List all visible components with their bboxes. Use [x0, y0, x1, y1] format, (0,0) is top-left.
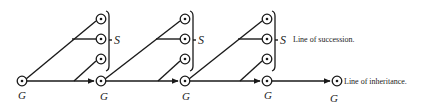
generation-label: G [264, 89, 272, 101]
somatic-node [262, 54, 272, 64]
somatic-node [180, 14, 190, 24]
succession-label: S [114, 33, 120, 47]
generation-label: G [100, 90, 108, 102]
somatic-node [96, 14, 106, 24]
nodes [17, 14, 342, 86]
succession-bracket [106, 11, 109, 71]
somatic-node [180, 34, 190, 44]
succession-bracket [272, 11, 275, 71]
germ-node [180, 76, 190, 86]
succession-diagonal-lower [240, 61, 262, 81]
generation-labels: G G G G G [18, 89, 338, 104]
somatic-node [96, 54, 106, 64]
line-of-inheritance-caption: Line of inheritance. [344, 77, 407, 86]
succession-label: S [198, 33, 204, 47]
succession-label: S [280, 33, 286, 47]
germ-node [262, 76, 272, 86]
succession-diagonal-lower [158, 61, 180, 81]
somatic-node [262, 34, 272, 44]
somatic-node [262, 14, 272, 24]
generation-label: G [330, 92, 338, 104]
germ-plasm-diagram: S S S Line of succession. Line of inheri… [0, 0, 430, 108]
somatic-node [96, 34, 106, 44]
germ-node [96, 76, 106, 86]
germ-node [17, 76, 27, 86]
succession-diagonal-lower [74, 61, 96, 81]
generation-label: G [18, 89, 26, 101]
germ-node [332, 76, 342, 86]
unit-1: S [26, 11, 120, 81]
somatic-node [180, 54, 190, 64]
generation-label: G [182, 90, 190, 102]
line-of-succession-caption: Line of succession. [293, 35, 355, 44]
succession-bracket [190, 11, 193, 71]
